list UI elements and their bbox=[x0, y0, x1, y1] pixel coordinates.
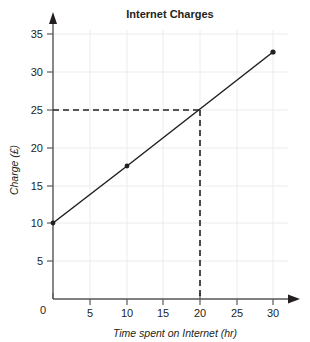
x-tick-label-15: 15 bbox=[157, 307, 169, 319]
x-tick-label-30: 30 bbox=[267, 307, 279, 319]
internet-charges-chart: Internet Charges 35 30 25 20 15 10 5 0 bbox=[0, 0, 310, 342]
y-tick-label-0: 0 bbox=[40, 304, 46, 316]
y-axis-title: Charge (£) bbox=[8, 145, 20, 195]
x-axis-title: Time spent on Internet (hr) bbox=[113, 327, 237, 339]
data-point-10-17.5 bbox=[125, 164, 130, 169]
y-tick-label-10: 10 bbox=[31, 217, 43, 229]
chart-title: Internet Charges bbox=[126, 8, 213, 20]
y-tick-label-15: 15 bbox=[31, 180, 43, 192]
x-tick-label-20: 20 bbox=[194, 307, 206, 319]
y-tick-label-25: 25 bbox=[31, 104, 43, 116]
x-tick-label-5: 5 bbox=[87, 307, 93, 319]
chart-container: Internet Charges 35 30 25 20 15 10 5 0 bbox=[0, 0, 310, 342]
x-tick-label-10: 10 bbox=[121, 307, 133, 319]
x-tick-label-25: 25 bbox=[231, 307, 243, 319]
data-point-0-10 bbox=[51, 221, 56, 226]
y-tick-label-30: 30 bbox=[31, 66, 43, 78]
data-point-30-32.5 bbox=[270, 49, 275, 54]
y-tick-label-5: 5 bbox=[37, 255, 43, 267]
y-tick-label-35: 35 bbox=[31, 28, 43, 40]
y-tick-label-20: 20 bbox=[31, 142, 43, 154]
chart-background bbox=[0, 0, 310, 342]
